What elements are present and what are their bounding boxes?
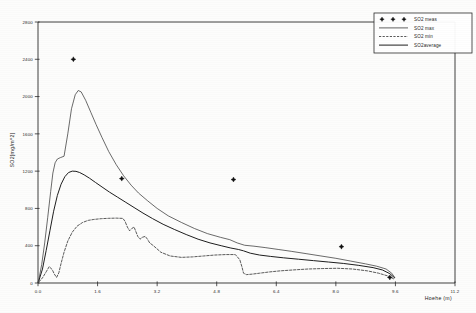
series-line-so2-min (39, 218, 394, 282)
x-tick-label: 9.6 (392, 289, 399, 294)
series-points-so2-meas (71, 57, 76, 62)
legend-item-label: SO2 min (414, 34, 433, 39)
x-tick-label: 11.2 (450, 289, 459, 294)
series-line-so2-max (39, 91, 395, 281)
y-tick-label: 2400 (22, 57, 33, 62)
series-points-so2-meas (231, 177, 236, 182)
y-tick-label: 1600 (22, 132, 33, 137)
x-tick-label: 0.0 (35, 289, 42, 294)
legend-item-label: SO2 max (414, 26, 435, 31)
y-tick-label: 2800 (22, 20, 33, 25)
series-line-so2-average (39, 171, 395, 281)
y-tick-label: 2000 (22, 94, 33, 99)
legend-item-label: SO2average (414, 43, 442, 48)
x-axis-title: Hoehe (m) (425, 295, 452, 301)
y-axis-title: SO2[mg/m^2] (9, 132, 15, 167)
y-tick-label: 800 (25, 206, 33, 211)
series-points-so2-meas (119, 176, 124, 181)
x-tick-label: 6.4 (273, 289, 280, 294)
series-points-so2-meas (339, 244, 344, 249)
data-series-layer (39, 91, 395, 283)
x-tick-label: 8.0 (332, 289, 339, 294)
y-axis-ticks: 040080012001600200024002800 (22, 20, 39, 286)
chart-legend: SO2 measSO2 maxSO2 minSO2average (374, 13, 472, 53)
y-tick-label: 0 (30, 281, 33, 286)
x-tick-label: 3.2 (154, 289, 161, 294)
x-tick-label: 4.8 (213, 289, 220, 294)
chart-plot-svg: 040080012001600200024002800 0.01.63.24.8… (0, 0, 476, 313)
legend-item-label: SO2 meas (414, 17, 437, 22)
x-tick-label: 1.6 (94, 289, 101, 294)
y-tick-label: 1200 (22, 169, 33, 174)
chart-figure: 040080012001600200024002800 0.01.63.24.8… (0, 0, 476, 313)
axes-frame (38, 22, 455, 283)
y-tick-label: 400 (25, 243, 33, 248)
